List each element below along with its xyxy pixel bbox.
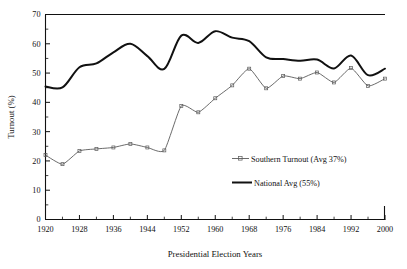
x-axis-title: Presidential Election Years [168, 249, 263, 259]
y-tick-label-30: 30 [32, 128, 40, 137]
y-tick-label-10: 10 [32, 186, 40, 195]
x-tick-label-1992: 1992 [343, 225, 359, 234]
y-tick-label-0: 0 [36, 215, 40, 224]
y-tick-label-60: 60 [32, 40, 40, 49]
x-tick-label-1944: 1944 [139, 225, 155, 234]
x-tick-label-1960: 1960 [207, 225, 223, 234]
y-axis-title: Turnout (%) [6, 95, 16, 138]
legend-label-southern-turnout: Southern Turnout (Avg 37%) [251, 155, 347, 164]
y-tick-label-50: 50 [32, 69, 40, 78]
x-tick-label-2000: 2000 [377, 225, 393, 234]
chart-canvas: 010203040506070 192019281936194419521960… [0, 0, 407, 269]
x-tick-label-1920: 1920 [37, 225, 53, 234]
turnout-line-chart: 010203040506070 192019281936194419521960… [0, 0, 407, 269]
x-tick-label-1968: 1968 [241, 225, 257, 234]
x-tick-label-1936: 1936 [105, 225, 121, 234]
x-tick-label-1976: 1976 [275, 225, 291, 234]
x-tick-label-1952: 1952 [173, 225, 189, 234]
y-tick-label-70: 70 [32, 10, 40, 19]
y-tick-label-40: 40 [32, 98, 40, 107]
x-tick-label-1928: 1928 [71, 225, 87, 234]
legend-label-national-avg: National Avg (55%) [254, 179, 320, 188]
x-tick-label-1984: 1984 [309, 225, 325, 234]
y-tick-label-20: 20 [32, 157, 40, 166]
